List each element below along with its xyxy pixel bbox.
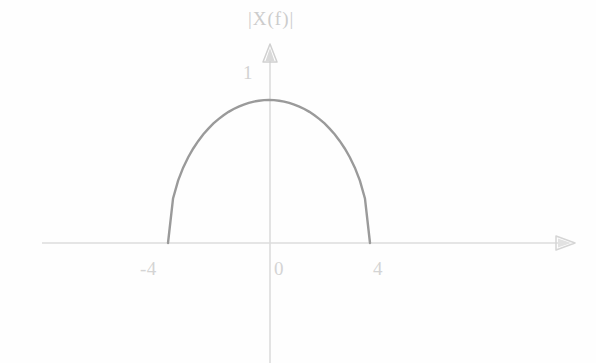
y-axis-title: |X(f)| [248,8,294,30]
spectrum-curve-path [168,100,370,243]
x-axis-group [42,236,575,250]
y-axis-arrowhead-fill [266,48,275,61]
spectrum-curve-group [168,100,370,243]
spectrum-figure: |X(f)| 1 -4 0 4 [0,0,596,363]
y-tick-label-1: 1 [243,62,253,84]
y-axis-group [263,44,277,363]
x-tick-label-minus-4: -4 [140,258,157,280]
x-tick-label-0: 0 [274,258,284,280]
plot-canvas [0,0,596,363]
x-tick-label-4: 4 [373,258,383,280]
